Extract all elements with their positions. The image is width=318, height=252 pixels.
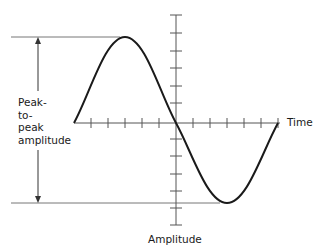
label-line-2: to- <box>18 109 71 122</box>
amplitude-axis <box>170 15 182 225</box>
label-line-4: amplitude <box>18 134 71 147</box>
label-line-1: Peak- <box>18 96 71 109</box>
label-line-3: peak <box>18 121 71 134</box>
amplitude-axis-label: Amplitude <box>148 233 202 246</box>
time-axis-label: Time <box>287 116 313 129</box>
peak-to-peak-amplitude-label: Peak- to- peak amplitude <box>18 96 71 146</box>
